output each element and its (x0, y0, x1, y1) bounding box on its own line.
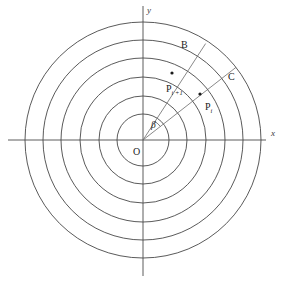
point-pi-plus-1-dot (170, 71, 173, 74)
polar-circles-diagram: x y O β B C Pi +1 Pi (0, 0, 283, 282)
figure-container: x y O β B C Pi +1 Pi (0, 0, 283, 282)
point-c-label: C (228, 71, 235, 82)
point-b-label: B (181, 39, 188, 50)
point-pi-dot (198, 92, 201, 95)
x-axis-label: x (270, 128, 275, 138)
point-pi-subscript: i (211, 107, 213, 114)
y-axis-label: y (146, 5, 151, 15)
beta-angle-label: β (150, 120, 156, 130)
origin-label: O (133, 146, 140, 157)
point-pi-plus-1-subscript: i +1 (172, 89, 183, 96)
